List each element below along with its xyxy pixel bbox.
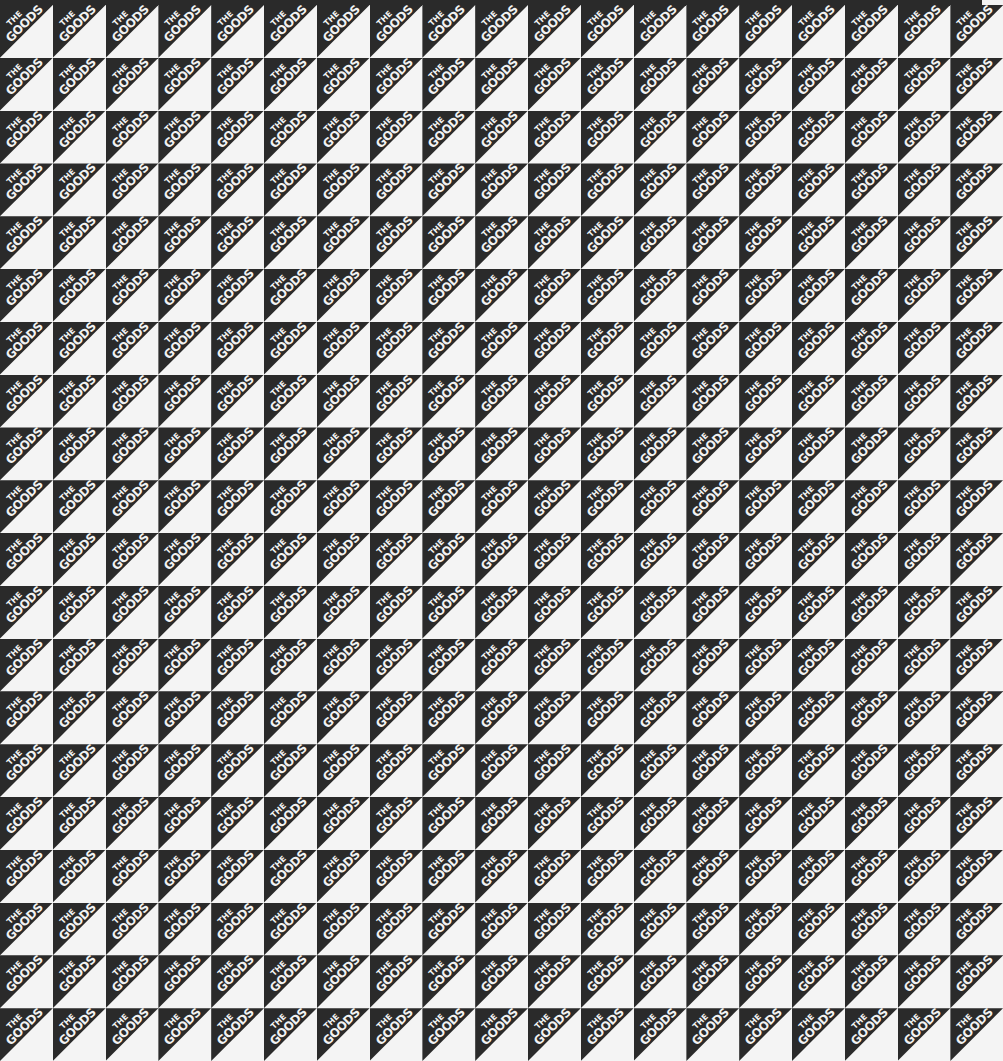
pattern-tile: THE GOODS [158, 903, 211, 956]
pattern-tile: THE GOODS [634, 58, 687, 111]
pattern-tile: THE GOODS [634, 850, 687, 903]
pattern-tile: THE GOODS [53, 639, 106, 692]
pattern-tile: THE GOODS [950, 1008, 1003, 1061]
pattern-tile: THE GOODS [0, 903, 53, 956]
pattern-tile: THE GOODS [158, 691, 211, 744]
pattern-tile: THE GOODS [898, 903, 951, 956]
pattern-tile: THE GOODS [53, 1008, 106, 1061]
pattern-tile: THE GOODS [581, 850, 634, 903]
pattern-tile: THE GOODS [634, 322, 687, 375]
pattern-tile: THE GOODS [528, 744, 581, 797]
pattern-tile: THE GOODS [739, 1008, 792, 1061]
pattern-tile: THE GOODS [370, 691, 423, 744]
pattern-tile: THE GOODS [528, 586, 581, 639]
pattern-tile: THE GOODS [950, 5, 1003, 58]
pattern-tile: THE GOODS [898, 163, 951, 216]
pattern-tile: THE GOODS [158, 744, 211, 797]
pattern-tile: THE GOODS [0, 744, 53, 797]
pattern-tile: THE GOODS [106, 797, 159, 850]
pattern-tile: THE GOODS [739, 216, 792, 269]
pattern-tile: THE GOODS [581, 269, 634, 322]
pattern-tile: THE GOODS [422, 850, 475, 903]
pattern-tile: THE GOODS [739, 850, 792, 903]
pattern-tile: THE GOODS [53, 691, 106, 744]
pattern-tile: THE GOODS [581, 1008, 634, 1061]
pattern-tile: THE GOODS [898, 322, 951, 375]
pattern-tile: THE GOODS [950, 586, 1003, 639]
pattern-tile: THE GOODS [634, 216, 687, 269]
pattern-tile: THE GOODS [792, 58, 845, 111]
pattern-tile: THE GOODS [158, 797, 211, 850]
pattern-tile: THE GOODS [686, 5, 739, 58]
pattern-tile: THE GOODS [792, 903, 845, 956]
pattern-tile: THE GOODS [686, 850, 739, 903]
pattern-tile: THE GOODS [898, 691, 951, 744]
pattern-tile: THE GOODS [317, 111, 370, 164]
pattern-tile: THE GOODS [898, 586, 951, 639]
pattern-tile: THE GOODS [211, 163, 264, 216]
pattern-tile: THE GOODS [106, 58, 159, 111]
pattern-tile: THE GOODS [475, 797, 528, 850]
pattern-tile: THE GOODS [211, 586, 264, 639]
pattern-tile: THE GOODS [422, 691, 475, 744]
pattern-tile: THE GOODS [686, 639, 739, 692]
pattern-tile: THE GOODS [686, 322, 739, 375]
pattern-tile: THE GOODS [686, 1008, 739, 1061]
pattern-tile: THE GOODS [739, 586, 792, 639]
pattern-tile: THE GOODS [739, 955, 792, 1008]
pattern-tile: THE GOODS [739, 58, 792, 111]
pattern-tile: THE GOODS [950, 691, 1003, 744]
pattern-tile: THE GOODS [317, 427, 370, 480]
pattern-tile: THE GOODS [0, 163, 53, 216]
pattern-tile: THE GOODS [211, 903, 264, 956]
pattern-tile: THE GOODS [845, 163, 898, 216]
pattern-tile: THE GOODS [898, 480, 951, 533]
pattern-tile: THE GOODS [528, 691, 581, 744]
pattern-tile: THE GOODS [634, 691, 687, 744]
pattern-tile: THE GOODS [845, 5, 898, 58]
pattern-tile: THE GOODS [528, 269, 581, 322]
pattern-tile: THE GOODS [634, 375, 687, 428]
pattern-tile: THE GOODS [53, 427, 106, 480]
pattern-tile: THE GOODS [264, 322, 317, 375]
pattern-tile: THE GOODS [106, 427, 159, 480]
pattern-tile: THE GOODS [370, 5, 423, 58]
pattern-tile: THE GOODS [264, 269, 317, 322]
pattern-tile: THE GOODS [370, 850, 423, 903]
pattern-tile: THE GOODS [739, 903, 792, 956]
pattern-tile: THE GOODS [739, 322, 792, 375]
pattern-tile: THE GOODS [528, 797, 581, 850]
pattern-tile: THE GOODS [792, 850, 845, 903]
pattern-tile: THE GOODS [792, 533, 845, 586]
pattern-tile: THE GOODS [370, 480, 423, 533]
pattern-tile: THE GOODS [370, 163, 423, 216]
pattern-tile: THE GOODS [686, 586, 739, 639]
pattern-tile: THE GOODS [845, 58, 898, 111]
pattern-tile: THE GOODS [845, 533, 898, 586]
pattern-tile: THE GOODS [845, 903, 898, 956]
pattern-tile: THE GOODS [264, 533, 317, 586]
pattern-tile: THE GOODS [422, 216, 475, 269]
pattern-tile: THE GOODS [211, 375, 264, 428]
pattern-tile: THE GOODS [475, 955, 528, 1008]
pattern-tile: THE GOODS [581, 903, 634, 956]
pattern-tile: THE GOODS [370, 111, 423, 164]
pattern-tile: THE GOODS [53, 269, 106, 322]
pattern-tile: THE GOODS [686, 955, 739, 1008]
pattern-tile: THE GOODS [475, 533, 528, 586]
pattern-tile: THE GOODS [53, 5, 106, 58]
pattern-tile: THE GOODS [739, 5, 792, 58]
pattern-tile: THE GOODS [898, 955, 951, 1008]
pattern-tile: THE GOODS [475, 269, 528, 322]
pattern-tile: THE GOODS [792, 691, 845, 744]
pattern-tile: THE GOODS [211, 269, 264, 322]
pattern-tile: THE GOODS [739, 797, 792, 850]
pattern-tile: THE GOODS [528, 533, 581, 586]
pattern-tile: THE GOODS [422, 111, 475, 164]
pattern-tile: THE GOODS [317, 58, 370, 111]
pattern-tile: THE GOODS [950, 955, 1003, 1008]
pattern-tile: THE GOODS [370, 1008, 423, 1061]
pattern-tile: THE GOODS [158, 427, 211, 480]
pattern-tile: THE GOODS [370, 903, 423, 956]
pattern-tile: THE GOODS [634, 5, 687, 58]
